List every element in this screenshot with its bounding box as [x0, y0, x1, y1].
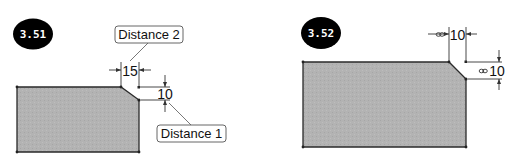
- dimension-value-horizontal[interactable]: 10: [450, 27, 466, 43]
- dimension-value-vertical[interactable]: 10: [489, 63, 505, 79]
- chamfered-rectangle: [17, 87, 139, 152]
- figure-badge: 3.52: [301, 17, 341, 49]
- dimension-value-horizontal[interactable]: 15: [122, 63, 138, 79]
- chamfered-rectangle: [303, 62, 466, 147]
- link-icon: [436, 33, 444, 37]
- callout-distance-1: Distance 1: [157, 103, 226, 142]
- diagram-canvas: 3.51 15: [0, 0, 510, 157]
- callout-label: Distance 1: [161, 126, 222, 141]
- callout-label: Distance 2: [118, 27, 179, 42]
- dimension-value-vertical[interactable]: 10: [157, 86, 173, 102]
- figure-3-52: 3.52 10: [301, 17, 505, 148]
- callout-distance-2: Distance 2: [115, 26, 183, 61]
- figure-3-51: 3.51 15: [13, 19, 226, 154]
- badge-label: 3.51: [20, 28, 47, 41]
- badge-label: 3.52: [308, 27, 335, 40]
- link-icon: [479, 69, 487, 73]
- figure-badge: 3.51: [13, 19, 53, 50]
